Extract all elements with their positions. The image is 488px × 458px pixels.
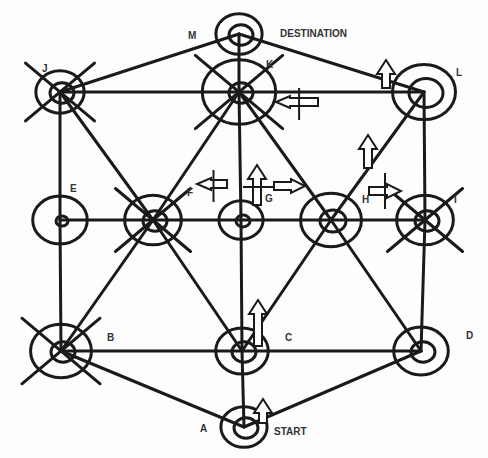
node-label-e: E (70, 183, 77, 194)
edge-k-f (153, 92, 239, 220)
edges-layer (60, 34, 425, 427)
edge-e-b (60, 220, 61, 351)
node-label-b: B (107, 332, 114, 343)
destination-label: DESTINATION (280, 28, 347, 39)
node-label-d: D (466, 330, 473, 341)
edge-i-d (421, 220, 425, 351)
arrow-up-near-C-icon (254, 399, 272, 423)
node-label-j: J (42, 63, 48, 74)
inner-ring-icon (234, 418, 258, 438)
arrow-right-near-H-icon (369, 173, 401, 209)
edge-l-h (331, 92, 424, 220)
arrow-up-near-L-lower-icon (359, 135, 377, 168)
node-label-l: L (456, 67, 462, 78)
edge-l-i (424, 92, 425, 220)
node-label-k: K (266, 59, 274, 70)
edge-j-m (60, 34, 239, 92)
node-label-f: F (187, 187, 193, 198)
start-label: START (274, 426, 307, 437)
node-label-a: A (200, 423, 207, 434)
arrow-right-near-G-icon (274, 179, 305, 193)
node-label-g: G (265, 193, 273, 204)
node-label-c: C (285, 332, 292, 343)
node-label-m: M (188, 30, 196, 41)
node-label-h: H (362, 194, 369, 205)
node-label-i: I (454, 194, 457, 205)
path-planning-diagram: ASTARTBCDEFGHIJKLMDESTINATION (0, 0, 488, 458)
arrow-left-near-F-icon (197, 170, 227, 202)
edge-d-a (244, 351, 421, 427)
graph-canvas: ASTARTBCDEFGHIJKLMDESTINATION (0, 0, 488, 458)
